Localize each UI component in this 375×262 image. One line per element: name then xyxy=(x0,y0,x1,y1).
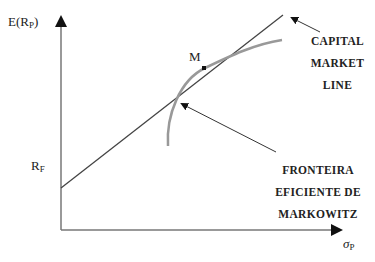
capital-market-line xyxy=(61,15,283,188)
cml-label: CAPITAL MARKET LINE xyxy=(300,30,375,96)
x-axis-label: σP xyxy=(343,236,354,252)
y-axis-label: E(RP) xyxy=(8,14,38,30)
market-portfolio-label: M xyxy=(189,49,201,65)
market-portfolio-point xyxy=(202,66,206,70)
risk-free-label: RF xyxy=(31,158,45,174)
efficient-frontier-curve xyxy=(168,40,282,146)
frontier-pointer-arrow xyxy=(182,104,276,152)
frontier-label: FRONTEIRA EFICIENTE DE MARKOWITZ xyxy=(268,159,368,225)
